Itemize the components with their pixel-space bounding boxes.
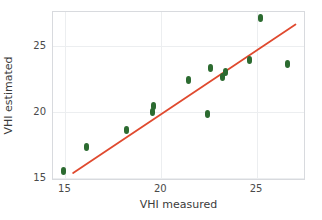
x-tick-label: 20	[154, 183, 167, 194]
y-axis-title: VHI estimated	[2, 11, 16, 180]
data-point	[151, 102, 156, 110]
data-point	[124, 126, 129, 134]
plot-area	[52, 11, 305, 180]
data-points-layer	[53, 12, 304, 179]
data-point	[205, 110, 210, 118]
y-tick-label: 20	[33, 105, 46, 116]
data-point	[186, 76, 191, 84]
x-axis-title: VHI measured	[52, 198, 305, 211]
x-tick-label: 15	[58, 183, 71, 194]
data-point	[285, 60, 290, 68]
y-axis-title-text: VHI estimated	[3, 57, 16, 135]
data-point	[208, 64, 213, 72]
data-point	[258, 14, 263, 22]
data-point	[84, 143, 89, 151]
y-tick-label: 25	[33, 39, 46, 50]
data-point	[61, 167, 66, 175]
scatter-chart-figure: 152025 152025 VHI measured VHI estimated	[0, 0, 322, 220]
data-point	[223, 68, 228, 76]
y-tick-label: 15	[33, 171, 46, 182]
x-tick-label: 25	[250, 183, 263, 194]
data-point	[247, 56, 252, 64]
